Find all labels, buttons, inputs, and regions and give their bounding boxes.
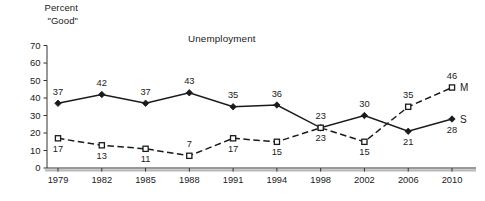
data-point-label: 21 <box>403 137 413 147</box>
data-point-marker <box>55 100 61 107</box>
data-point-label: 36 <box>272 89 282 99</box>
data-point-marker <box>142 100 148 107</box>
data-point-label: 17 <box>228 144 238 154</box>
x-axis-tick-label: 1994 <box>267 175 288 185</box>
data-point-marker <box>361 112 367 118</box>
data-point-label: 7 <box>187 139 192 149</box>
x-axis-tick-label: 2002 <box>354 175 375 185</box>
data-point-label: 23 <box>315 111 325 121</box>
data-point-label: 15 <box>359 147 369 157</box>
data-point-label: 42 <box>97 78 107 88</box>
data-point-label: 37 <box>140 87 150 97</box>
series-label-M: M <box>460 82 468 93</box>
data-point-marker <box>99 91 105 97</box>
data-point-marker <box>230 104 236 111</box>
data-point-marker <box>274 139 279 144</box>
x-axis-tick-label: 2006 <box>398 175 419 185</box>
x-axis-tick-label: 1979 <box>48 175 69 185</box>
y-axis-tick-label: 40 <box>30 92 41 103</box>
data-point-marker <box>449 116 455 122</box>
data-point-label: 35 <box>403 90 413 100</box>
data-point-marker <box>143 146 148 151</box>
data-point-label: 15 <box>272 147 282 157</box>
data-point-label: 43 <box>184 76 194 86</box>
data-point-marker <box>406 104 411 109</box>
data-point-label: 30 <box>359 99 369 109</box>
series-label-S: S <box>460 114 467 125</box>
data-point-marker <box>187 153 192 158</box>
data-point-label: 35 <box>228 90 238 100</box>
data-point-marker <box>449 85 454 90</box>
data-point-label: 11 <box>141 154 151 164</box>
x-axis-tick-label: 1988 <box>179 175 200 185</box>
data-point-label: 37 <box>53 87 63 97</box>
data-point-label: 23 <box>315 133 325 143</box>
x-axis-tick-label: 1991 <box>223 175 244 185</box>
series-line-S <box>58 93 452 132</box>
y-axis-tick-label: 70 <box>30 40 41 51</box>
data-point-label: 28 <box>447 125 457 135</box>
data-point-marker <box>55 136 60 141</box>
data-point-label: 17 <box>53 144 63 154</box>
x-axis-tick-label: 2010 <box>442 175 463 185</box>
data-point-label: 46 <box>447 71 457 81</box>
x-axis-tick-label: 1998 <box>310 175 331 185</box>
plot-area: 0102030405060701979198219851988199119941… <box>0 0 485 201</box>
data-point-marker <box>231 136 236 141</box>
y-axis-tick-label: 0 <box>35 162 40 173</box>
unemployment-line-chart: Percent "Good" Unemployment 010203040506… <box>0 0 485 201</box>
y-axis-tick-label: 50 <box>30 75 41 86</box>
y-axis-tick-label: 10 <box>30 145 41 156</box>
x-axis-tick-label: 1982 <box>91 175 112 185</box>
data-point-marker <box>362 139 367 144</box>
data-point-marker <box>405 128 411 134</box>
data-point-label: 13 <box>97 151 107 161</box>
y-axis-tick-label: 60 <box>30 57 41 68</box>
y-axis-tick-label: 30 <box>30 110 41 121</box>
y-axis-tick-label: 20 <box>30 127 41 138</box>
data-point-marker <box>274 102 280 108</box>
data-point-marker <box>99 143 104 148</box>
data-point-marker <box>186 90 192 97</box>
data-point-marker <box>318 125 323 130</box>
x-axis-tick-label: 1985 <box>135 175 156 185</box>
